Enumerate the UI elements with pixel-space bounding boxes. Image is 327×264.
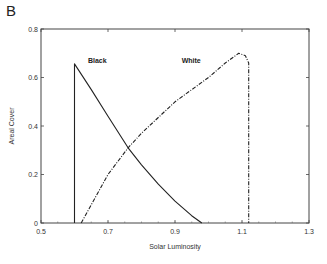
x-tick-label: 1.3 (304, 228, 314, 235)
y-tick-label: 0 (34, 220, 38, 227)
x-tick-label: 0.9 (170, 228, 180, 235)
x-tick-label: 0.7 (103, 228, 113, 235)
label-white: White (182, 57, 201, 64)
series-labels: BlackWhite (88, 57, 201, 64)
y-tick-label: 0.8 (28, 26, 38, 33)
x-tick-label: 1.1 (237, 228, 247, 235)
plot-frame (41, 29, 309, 223)
y-tick-label: 0.4 (28, 123, 38, 130)
label-black: Black (88, 57, 107, 64)
chart: 0.50.70.91.11.300.20.40.60.8 BlackWhite … (0, 0, 327, 264)
x-tick-label: 0.5 (36, 228, 46, 235)
series-black-line (75, 64, 202, 223)
y-tick-label: 0.2 (28, 171, 38, 178)
x-axis-title: Solar Luminosity (149, 243, 201, 251)
series-lines (75, 53, 249, 223)
y-axis-title: Areal Cover (8, 107, 15, 145)
y-tick-label: 0.6 (28, 74, 38, 81)
axis-ticks: 0.50.70.91.11.300.20.40.60.8 (28, 26, 314, 236)
plot-border (41, 29, 309, 223)
series-white-line (81, 53, 249, 223)
